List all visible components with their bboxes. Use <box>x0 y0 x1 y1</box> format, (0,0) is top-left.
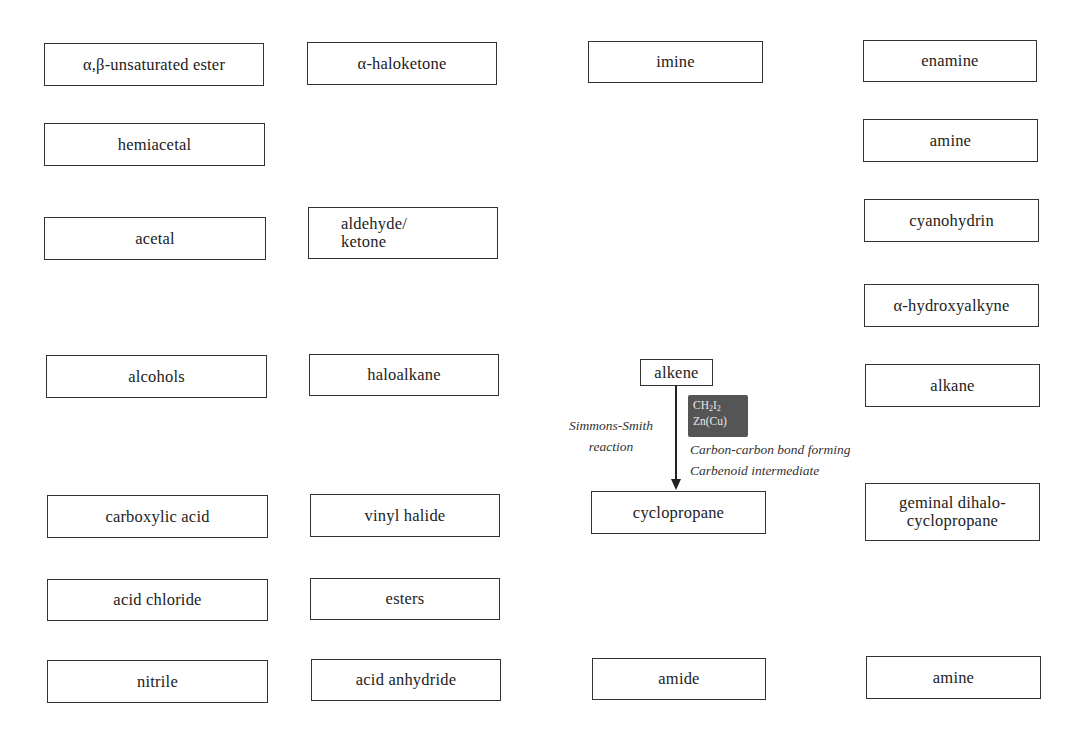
node-alcohols: alcohols <box>46 355 267 398</box>
node-acid-chloride: acid chloride <box>47 579 268 621</box>
node-label: carboxylic acid <box>105 508 209 525</box>
arrow-down-icon <box>671 479 681 490</box>
node-label: α,β-unsaturated ester <box>83 56 225 73</box>
node-imine: imine <box>588 41 763 83</box>
node-label: vinyl halide <box>365 507 446 524</box>
node-haloalkane: haloalkane <box>309 354 499 396</box>
node-label: amine <box>930 132 971 149</box>
reaction-note-2: Carbenoid intermediate <box>690 461 900 482</box>
node-esters: esters <box>310 578 500 620</box>
node-cyanohydrin: cyanohydrin <box>864 199 1039 242</box>
node-vinyl-halide: vinyl halide <box>310 494 500 537</box>
reaction-name-line-1: Simmons-Smith <box>552 416 670 437</box>
reaction-note-1: Carbon-carbon bond forming <box>690 440 900 461</box>
node-label: alkane <box>930 377 974 394</box>
node-label: α-haloketone <box>358 55 447 72</box>
reagent-line-2: Zn(Cu) <box>693 414 743 430</box>
reagent-box: CH2I2 Zn(Cu) <box>688 395 748 437</box>
node-enamine: enamine <box>863 40 1037 82</box>
node-label: esters <box>386 590 425 607</box>
node-label: enamine <box>921 52 978 69</box>
node-amide: amide <box>592 658 766 700</box>
node-label: amine <box>933 669 974 686</box>
node-a-hydroxyalkyne: α-hydroxyalkyne <box>864 284 1039 327</box>
node-label: hemiacetal <box>118 136 191 153</box>
node-carboxylic-acid: carboxylic acid <box>47 495 268 538</box>
node-amine-bottom: amine <box>866 656 1041 699</box>
node-geminal-dihalocyclopropane: geminal dihalo- cyclopropane <box>865 483 1040 541</box>
node-nitrile: nitrile <box>47 660 268 703</box>
node-label: acetal <box>135 230 175 247</box>
node-label: acid chloride <box>113 591 201 608</box>
node-label: alcohols <box>128 368 185 385</box>
node-hemiacetal: hemiacetal <box>44 123 265 166</box>
reaction-name: Simmons-Smith reaction <box>552 416 670 458</box>
node-label: geminal dihalo- cyclopropane <box>899 494 1006 530</box>
node-label: imine <box>656 53 695 70</box>
node-cyclopropane: cyclopropane <box>591 491 766 534</box>
reaction-arrow-shaft <box>675 386 677 480</box>
node-label: aldehyde/ ketone <box>341 215 407 251</box>
node-alkane: alkane <box>865 364 1040 407</box>
node-label: alkene <box>654 364 698 381</box>
reagent-line-1: CH2I2 <box>693 398 743 414</box>
reaction-name-line-2: reaction <box>552 437 670 458</box>
node-label: acid anhydride <box>356 671 456 688</box>
node-amine-top: amine <box>863 119 1038 162</box>
node-alkene: alkene <box>640 359 713 386</box>
reaction-notes: Carbon-carbon bond forming Carbenoid int… <box>690 440 900 482</box>
node-acid-anhydride: acid anhydride <box>311 659 501 701</box>
node-ab-unsaturated-ester: α,β-unsaturated ester <box>44 43 264 86</box>
node-label: amide <box>658 670 699 687</box>
node-label: α-hydroxyalkyne <box>893 297 1009 314</box>
node-label: nitrile <box>137 673 178 690</box>
node-label: cyanohydrin <box>909 212 994 229</box>
node-acetal: acetal <box>44 217 266 260</box>
node-aldehyde-ketone: aldehyde/ ketone <box>308 207 498 259</box>
node-label: cyclopropane <box>633 504 724 521</box>
node-a-haloketone: α-haloketone <box>307 42 497 85</box>
node-label: haloalkane <box>367 366 440 383</box>
